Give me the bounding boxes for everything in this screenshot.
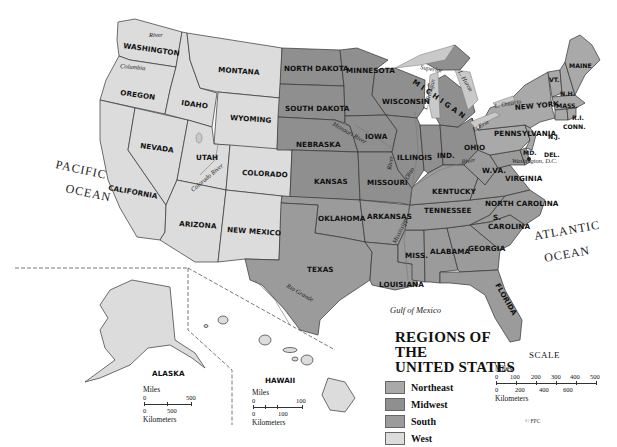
scale-title: SCALE [529,350,560,360]
label-maine: MAINE [569,62,592,69]
label-oklahoma: OKLAHOMA [318,214,366,223]
label-louisiana: LOUISIANA [379,280,424,289]
label-ohio: OHIO [464,143,485,152]
label-kentucky: KENTUCKY [432,187,477,196]
label-nebraska: NEBRASKA [296,140,341,149]
label-gulf-of-mexico: Gulf of Mexico [390,305,441,315]
label-missouri: MISSOURI [367,178,408,187]
state-alaska[interactable] [85,280,205,382]
state-kansas[interactable] [290,150,360,200]
swatch-midwest [385,398,405,411]
label-maryland: MD. [523,149,537,156]
label-south-dakota: SOUTH DAKOTA [285,104,350,113]
label-utah: UTAH [196,153,218,162]
label-texas: TEXAS [307,265,334,274]
label-rhode-island: R.I. [572,114,584,121]
label-kansas: KANSAS [314,177,348,186]
swatch-northeast [385,381,405,394]
label-south-carolina-2: CAROLINA [488,222,530,231]
label-virginia: VIRGINIA [505,174,543,183]
swatch-south [385,415,405,428]
label-vermont: VT. [549,76,559,83]
label-south-carolina-1: S. [493,213,501,222]
state-connecticut[interactable] [555,109,568,120]
scale-alaska: Miles 0 500 0 500 Kilometers [143,386,203,431]
label-minnesota: MINNESOTA [346,66,395,75]
label-west-virginia: W.VA. [482,166,506,175]
scale-hawaii: Miles 0 100 0 100 Kilometers [252,389,312,434]
label-georgia: GEORGIA [468,244,506,253]
label-north-carolina: NORTH CAROLINA [485,199,559,208]
swatch-west [385,432,405,445]
label-mississippi: MISS. [405,251,428,260]
scale-main: SCALE Miles 0 100 200 300 400 500 0 200 … [495,365,615,420]
label-alaska: ALASKA [152,369,185,378]
label-new-jersey: N.J. [548,133,560,141]
state-indiana[interactable] [420,125,443,173]
label-hawaii: HAWAII [265,376,296,385]
label-pacific-2: OCEAN [64,181,112,204]
label-atlantic-2: OCEAN [543,243,591,265]
label-north-dakota: NORTH DAKOTA [284,64,349,73]
label-connecticut: CONN. [563,123,586,130]
label-indiana: IND. [437,151,455,160]
label-washington-dc: Washington, D.C. [512,157,558,164]
label-snake-river: River [148,31,163,38]
label-pacific-1: PACIFIC [54,157,108,181]
label-massachusetts: MASS. [556,102,578,109]
label-alabama: ALABAMA [430,247,470,256]
copyright: © FPC [525,418,540,424]
label-illinois: ILLINOIS [397,153,432,162]
label-tennessee: TENNESSEE [424,206,472,215]
label-atlantic-1: ATLANTIC [533,218,601,243]
dc-capital-marker [527,157,531,161]
label-new-hampshire: N.H. [560,90,575,97]
great-salt-lake [196,133,202,143]
legend-item-west: West [385,430,515,447]
label-iowa: IOWA [365,132,388,141]
